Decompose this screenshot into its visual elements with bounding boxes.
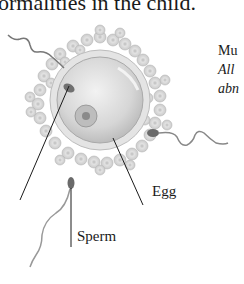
leader-line-left: [20, 86, 69, 200]
label-sperm: Sperm: [77, 228, 116, 245]
nucleolus: [82, 112, 90, 120]
label-egg: Egg: [152, 183, 176, 200]
fertilization-diagram: [0, 0, 244, 284]
sperm-bottom: [30, 177, 75, 267]
egg-cell: [57, 57, 143, 143]
sperm-right: [147, 129, 228, 145]
